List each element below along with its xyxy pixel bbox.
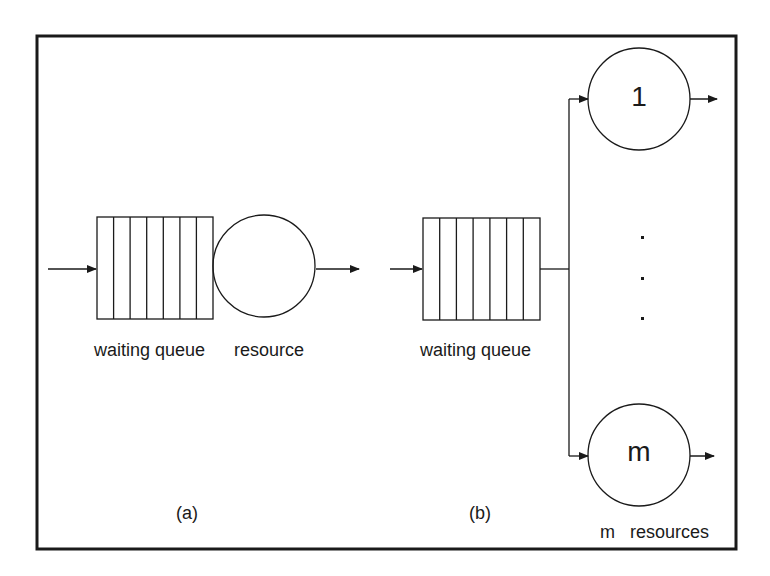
- panel-a: [48, 215, 359, 319]
- waiting-queue-label-b: waiting queue: [420, 340, 531, 361]
- dispatch-branches: [540, 99, 588, 456]
- m-resources-label: m resources: [600, 522, 709, 543]
- caption-b: (b): [469, 503, 491, 524]
- vertical-ellipsis-icon: [641, 236, 644, 320]
- resource-circle: [213, 215, 315, 317]
- waiting-queue-label-a: waiting queue: [94, 340, 205, 361]
- caption-a: (a): [176, 503, 198, 524]
- server-1-label: 1: [609, 81, 669, 113]
- resource-label: resource: [234, 340, 304, 361]
- server-m-label: m: [609, 436, 669, 468]
- waiting-queue-a: [97, 217, 213, 319]
- waiting-queue-b: [423, 218, 540, 320]
